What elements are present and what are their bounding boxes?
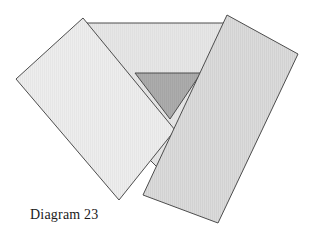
figure-root: Diagram 23 [0,0,315,247]
figure-caption: Diagram 23 [30,206,98,224]
